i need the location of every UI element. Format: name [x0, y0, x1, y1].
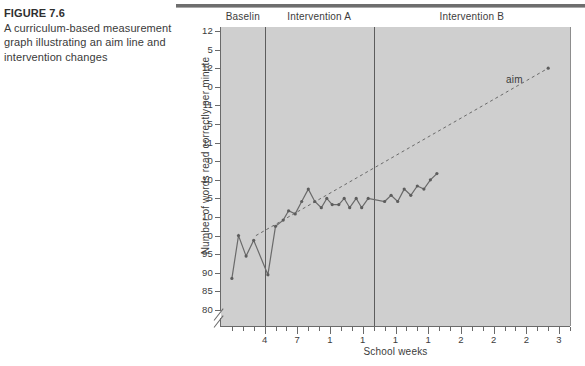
x-tick-label: 2: [516, 334, 536, 345]
x-tick-major: [559, 327, 560, 334]
x-tick-minor: [505, 327, 506, 331]
y-tick: [215, 50, 221, 51]
x-tick-minor: [406, 327, 407, 331]
x-tick-major: [461, 327, 462, 334]
y-tick: [215, 217, 221, 218]
x-tick-minor: [417, 327, 418, 331]
x-tick-label: 1: [353, 334, 373, 345]
x-tick-major: [297, 327, 298, 334]
y-axis-line: [220, 27, 221, 310]
x-tick-minor: [308, 327, 309, 331]
header-rule: [176, 4, 585, 8]
x-tick-label: 1: [320, 334, 340, 345]
x-tick-label: 1: [418, 334, 438, 345]
x-tick-major: [396, 327, 397, 334]
figure-number: FIGURE 7.6: [4, 6, 174, 21]
x-tick-minor: [570, 327, 571, 331]
x-tick-minor: [341, 327, 342, 331]
x-tick-label: 4: [255, 334, 275, 345]
x-axis-title: School weeks: [221, 346, 570, 357]
y-tick: [215, 161, 221, 162]
x-tick-minor: [548, 327, 549, 331]
aim-annotation-label: aim: [506, 74, 523, 85]
x-tick-minor: [537, 327, 538, 331]
x-tick-major: [494, 327, 495, 334]
figure-caption: FIGURE 7.6 A curriculum-based measuremen…: [4, 6, 174, 64]
x-tick-major: [330, 327, 331, 334]
x-tick-label: 2: [451, 334, 471, 345]
y-tick: [215, 87, 221, 88]
y-tick-label: 85: [202, 285, 213, 296]
x-tick-minor: [374, 327, 375, 331]
x-tick-label: 1: [386, 334, 406, 345]
y-tick: [215, 254, 221, 255]
x-tick-major: [265, 327, 266, 334]
x-tick-major: [526, 327, 527, 334]
phase-label: Intervention B: [440, 11, 505, 22]
y-tick: [215, 68, 221, 69]
x-tick-minor: [450, 327, 451, 331]
y-tick: [215, 105, 221, 106]
y-tick: [215, 291, 221, 292]
x-tick-major: [363, 327, 364, 334]
x-tick-minor: [232, 327, 233, 331]
x-tick-minor: [483, 327, 484, 331]
y-axis-title: Number of words read correctly per minut…: [200, 31, 211, 281]
phase-divider-line: [265, 27, 266, 326]
y-tick: [215, 273, 221, 274]
x-tick-minor: [385, 327, 386, 331]
x-tick-minor: [254, 327, 255, 331]
y-tick: [215, 124, 221, 125]
x-tick-minor: [515, 327, 516, 331]
x-tick-minor: [319, 327, 320, 331]
x-tick-minor: [472, 327, 473, 331]
x-tick-major: [428, 327, 429, 334]
plot-area: [221, 27, 571, 326]
phase-label: Baselin: [226, 11, 260, 22]
x-tick-label: 3: [549, 334, 569, 345]
x-tick-label: 7: [287, 334, 307, 345]
y-tick: [215, 143, 221, 144]
y-tick: [215, 180, 221, 181]
x-tick-minor: [276, 327, 277, 331]
y-tick-label: 80: [202, 304, 213, 315]
x-tick-minor: [286, 327, 287, 331]
y-tick: [215, 198, 221, 199]
x-tick-minor: [439, 327, 440, 331]
chart-figure: 12512011511010510095908580 4711112223 Ba…: [176, 0, 585, 366]
y-tick: [215, 310, 221, 311]
phase-divider-line: [374, 27, 375, 326]
figure-description: A curriculum-based measurement graph ill…: [4, 21, 174, 65]
x-tick-minor: [243, 327, 244, 331]
x-tick-minor: [352, 327, 353, 331]
x-tick-label: 2: [484, 334, 504, 345]
y-tick: [215, 236, 221, 237]
y-tick: [215, 31, 221, 32]
phase-label: Intervention A: [287, 11, 351, 22]
